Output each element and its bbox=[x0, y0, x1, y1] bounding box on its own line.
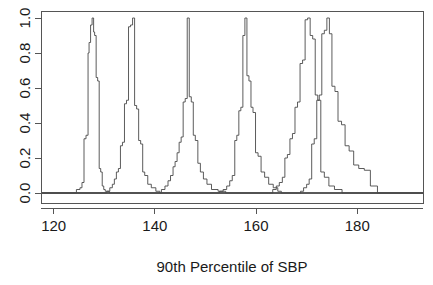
y-tick-label-4: 0.8 bbox=[16, 43, 33, 64]
x-tick-label-2: 160 bbox=[244, 217, 269, 234]
density-curves-group bbox=[41, 18, 423, 193]
chart-plot-area: 0.00.20.40.60.81.012014016018090th Perce… bbox=[0, 0, 433, 285]
x-axis-title: 90th Percentile of SBP bbox=[157, 258, 308, 275]
density-curve-4 bbox=[41, 18, 423, 193]
x-tick-label-1: 140 bbox=[142, 217, 167, 234]
y-tick-label-0: 0.0 bbox=[16, 183, 33, 204]
density-curve-1 bbox=[41, 18, 423, 193]
density-curve-2 bbox=[41, 18, 423, 193]
density-curve-3 bbox=[41, 18, 423, 193]
density-curve-5 bbox=[41, 18, 423, 193]
plot-box-border bbox=[41, 11, 423, 203]
x-tick-label-0: 120 bbox=[41, 217, 66, 234]
y-tick-label-5: 1.0 bbox=[16, 8, 33, 29]
axes-group bbox=[35, 11, 423, 214]
axis-labels-group: 0.00.20.40.60.81.012014016018090th Perce… bbox=[16, 8, 370, 275]
y-tick-label-1: 0.2 bbox=[16, 148, 33, 169]
y-tick-label-3: 0.6 bbox=[16, 78, 33, 99]
y-tick-label-2: 0.4 bbox=[16, 113, 33, 134]
x-tick-label-3: 180 bbox=[345, 217, 370, 234]
density-curve-6 bbox=[41, 18, 423, 193]
chart-figure: 0.00.20.40.60.81.012014016018090th Perce… bbox=[0, 0, 433, 285]
